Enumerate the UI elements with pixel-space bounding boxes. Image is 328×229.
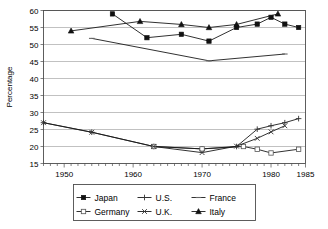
y-axis-label: Percentage <box>5 66 14 107</box>
data-point-marker-open-square <box>241 144 245 148</box>
y-tick-label: 50 <box>30 41 39 50</box>
legend-label: Japan <box>95 193 118 203</box>
x-tick-label: 1985 <box>297 170 315 179</box>
data-point-marker-filled-square <box>110 12 114 16</box>
data-point-marker-filled-square <box>145 36 149 40</box>
data-point-marker-filled-square <box>255 22 259 26</box>
chart-legend: JapanU.S.FranceGermanyU.K.Italy <box>74 185 256 221</box>
y-tick-label: 25 <box>30 126 39 135</box>
data-point-marker-filled-square <box>207 39 211 43</box>
legend-label: U.S. <box>156 193 173 203</box>
line-chart: 15202530354045505560 1950196019701980198… <box>0 0 328 229</box>
y-tick-label: 55 <box>30 24 39 33</box>
legend-label: Germany <box>95 207 131 217</box>
x-tick-label: 1950 <box>55 170 73 179</box>
y-tick-label: 30 <box>30 109 39 118</box>
y-tick-label: 45 <box>30 58 39 67</box>
legend-label: France <box>210 193 237 203</box>
y-tick-label: 20 <box>30 143 39 152</box>
data-point-marker-open-square <box>296 147 300 151</box>
data-point-marker-open-square <box>269 151 273 155</box>
x-tick-label: 1980 <box>262 170 280 179</box>
chart-container: 15202530354045505560 1950196019701980198… <box>0 0 328 229</box>
data-point-marker-open-square <box>81 209 85 213</box>
data-point-marker-filled-square <box>179 32 183 36</box>
data-point-marker-filled-square <box>283 22 287 26</box>
y-tick-label: 15 <box>30 160 39 169</box>
data-point-marker-open-square <box>255 147 259 151</box>
x-tick-label: 1970 <box>193 170 211 179</box>
y-axis-title: Percentage <box>5 66 14 107</box>
data-point-marker-open-square <box>200 147 204 151</box>
x-tick-label: 1960 <box>124 170 142 179</box>
legend-label: U.K. <box>156 207 173 217</box>
y-tick-label: 35 <box>30 92 39 101</box>
data-point-marker-filled-square <box>296 25 300 29</box>
data-point-marker-filled-square <box>81 195 85 199</box>
legend-label: Italy <box>210 207 226 217</box>
y-tick-label: 40 <box>30 75 39 84</box>
y-tick-label: 60 <box>30 7 39 16</box>
